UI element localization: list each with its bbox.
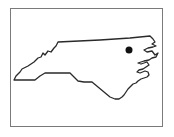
north-carolina-map: [0, 0, 174, 137]
location-marker: [126, 47, 133, 54]
state-outline: [14, 36, 158, 99]
